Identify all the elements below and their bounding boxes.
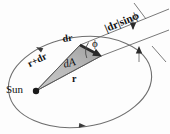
label-dr: dr <box>62 33 73 44</box>
dimension-extension-lower <box>136 46 166 62</box>
label-dr-text: dr <box>62 32 73 44</box>
label-sun: Sun <box>6 84 23 95</box>
label-r: r <box>72 74 76 84</box>
diagram-canvas <box>0 0 170 134</box>
label-r-text: r <box>72 73 76 84</box>
label-phi-angle: ϕ <box>92 38 98 49</box>
dimension-baseline <box>101 30 169 56</box>
sun-focus-dot <box>33 88 39 94</box>
orbit-area-diagram: Sun r+dr dA r dr ϕ |dr|sinϕ <box>0 0 170 134</box>
